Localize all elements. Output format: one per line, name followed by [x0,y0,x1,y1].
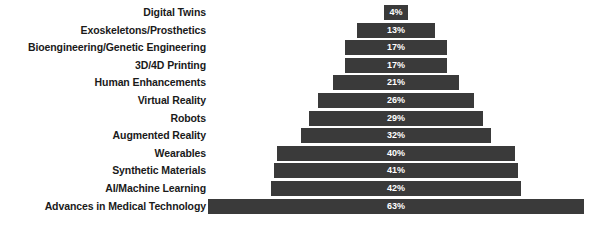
bar-value-label: 40% [366,146,426,161]
bar-value-label: 13% [366,23,426,38]
chart-row: Bioengineering/Genetic Engineering17% [0,39,590,57]
chart-row: Synthetic Materials41% [0,162,590,180]
bar-area: 42% [0,180,590,198]
bar-area: 17% [0,39,590,57]
bar-area: 32% [0,127,590,145]
bar-value-label: 32% [366,128,426,143]
chart-row: Wearables40% [0,145,590,163]
bar-value-label: 41% [366,163,426,178]
chart-row: Exoskeletons/Prosthetics13% [0,22,590,40]
bar-area: 4% [0,4,590,22]
chart-row: Augmented Reality32% [0,127,590,145]
chart-row: Robots29% [0,110,590,128]
chart-rows: Digital Twins4%Exoskeletons/Prosthetics1… [0,4,590,215]
bar-area: 41% [0,162,590,180]
bar-value-label: 4% [366,5,426,20]
bar-value-label: 17% [366,58,426,73]
bar-area: 29% [0,110,590,128]
chart-row: AI/Machine Learning42% [0,180,590,198]
bar-area: 63% [0,198,590,216]
bar-value-label: 17% [366,40,426,55]
bar-area: 21% [0,74,590,92]
bar-area: 13% [0,22,590,40]
bar-value-label: 42% [366,181,426,196]
chart-row: Advances in Medical Technology63% [0,198,590,216]
chart-row: Digital Twins4% [0,4,590,22]
bar-value-label: 21% [366,75,426,90]
chart-row: Human Enhancements21% [0,74,590,92]
chart-row: Virtual Reality26% [0,92,590,110]
bar-value-label: 63% [366,199,426,214]
bar-value-label: 29% [366,111,426,126]
chart-row: 3D/4D Printing17% [0,57,590,75]
bar-chart: Digital Twins4%Exoskeletons/Prosthetics1… [0,0,590,241]
bar-area: 26% [0,92,590,110]
bar-area: 40% [0,145,590,163]
bar-value-label: 26% [366,93,426,108]
bar-area: 17% [0,57,590,75]
